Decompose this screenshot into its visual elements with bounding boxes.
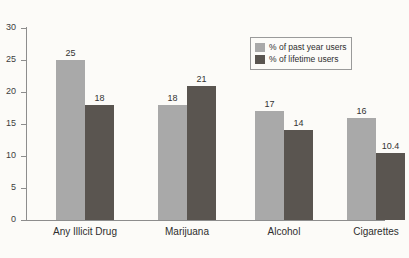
legend-item: % of past year users (255, 42, 346, 53)
chart-legend: % of past year users % of lifetime users (250, 37, 352, 70)
bar: 10.4 (376, 153, 405, 220)
bar-group: 1821 (158, 28, 216, 220)
bar: 16 (347, 118, 376, 220)
bar-value-label: 18 (94, 94, 104, 103)
y-axis-tick-label: 10 (0, 151, 16, 160)
bar: 18 (158, 105, 187, 220)
bar: 25 (56, 60, 85, 220)
bar-value-label: 16 (356, 107, 366, 116)
x-axis-category-label: Cigarettes (317, 226, 409, 237)
bar: 21 (187, 86, 216, 220)
y-axis-tick-label: 20 (0, 87, 16, 96)
legend-label: % of lifetime users (269, 55, 338, 64)
bar-value-label: 10.4 (382, 142, 400, 151)
x-axis-category-label: Any Illicit Drug (26, 226, 144, 237)
legend-swatch-past-year-icon (255, 43, 265, 52)
bar-value-label: 14 (293, 119, 303, 128)
y-axis-tick-label: 25 (0, 55, 16, 64)
y-axis-tick-label: 30 (0, 23, 16, 32)
legend-swatch-lifetime-icon (255, 55, 265, 64)
bar: 14 (284, 130, 313, 220)
y-axis-tick-label: 0 (0, 215, 16, 224)
bar-value-label: 25 (65, 49, 75, 58)
x-axis-line (26, 220, 385, 221)
bar: 18 (85, 105, 114, 220)
bar-value-label: 21 (196, 75, 206, 84)
legend-label: % of past year users (269, 43, 346, 52)
bar-group: 2518 (56, 28, 114, 220)
legend-item: % of lifetime users (255, 54, 346, 65)
y-axis-tick-label: 5 (0, 183, 16, 192)
y-axis-tick-label: 15 (0, 119, 16, 128)
bar-group: 1610.4 (347, 28, 405, 220)
y-axis-tick (21, 220, 27, 221)
bar-value-label: 18 (167, 94, 177, 103)
bar: 17 (255, 111, 284, 220)
bar-value-label: 17 (264, 100, 274, 109)
